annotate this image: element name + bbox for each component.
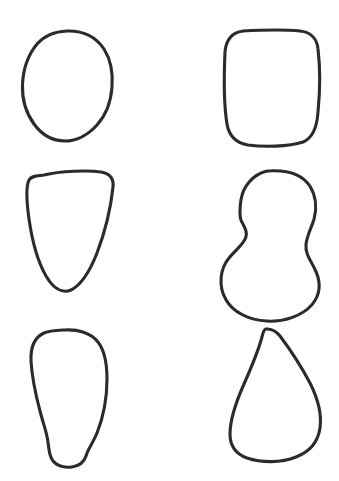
shape-sheet: Oval / circle outline Rounded square out… — [0, 0, 339, 481]
paper-background — [0, 0, 339, 481]
shapes-canvas — [0, 0, 339, 481]
